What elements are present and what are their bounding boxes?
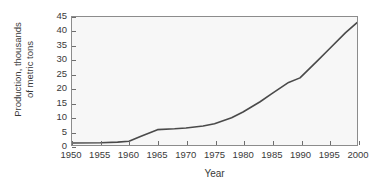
y-axis-title: Production, thousands of metric tons xyxy=(12,0,35,150)
production-line xyxy=(72,23,357,143)
y-axis-tick-labels: 051015202530354045 xyxy=(44,16,67,146)
y-tick-label: 45 xyxy=(56,11,67,21)
x-tick-mark xyxy=(216,141,217,145)
x-tick-label: 1990 xyxy=(290,149,311,160)
y-tick-mark xyxy=(72,118,76,119)
x-tick-mark xyxy=(302,141,303,145)
y-axis-title-line-1: Production, thousands xyxy=(12,0,24,150)
y-tick-mark xyxy=(72,147,76,148)
x-tick-label: 1980 xyxy=(233,149,254,160)
y-tick-label: 5 xyxy=(62,127,67,137)
y-tick-label: 40 xyxy=(56,26,67,36)
x-axis-tick-labels: 1950195519601965197019751980198519901995… xyxy=(71,149,358,163)
y-tick-label: 15 xyxy=(56,98,67,108)
x-tick-label: 1965 xyxy=(147,149,168,160)
y-tick-mark xyxy=(72,60,76,61)
x-tick-mark xyxy=(101,141,102,145)
x-tick-label: 1960 xyxy=(118,149,139,160)
x-tick-label: 1955 xyxy=(89,149,110,160)
y-tick-mark xyxy=(72,133,76,134)
x-tick-mark xyxy=(359,141,360,145)
y-tick-mark xyxy=(72,17,76,18)
y-tick-label: 30 xyxy=(56,55,67,65)
x-tick-mark xyxy=(72,141,73,145)
y-tick-mark xyxy=(72,104,76,105)
x-tick-label: 1950 xyxy=(60,149,81,160)
x-tick-label: 1970 xyxy=(175,149,196,160)
chart-figure: Production, thousands of metric tons 051… xyxy=(0,0,372,192)
y-tick-mark xyxy=(72,31,76,32)
y-tick-label: 35 xyxy=(56,40,67,50)
x-tick-label: 1975 xyxy=(204,149,225,160)
x-tick-mark xyxy=(330,141,331,145)
y-tick-label: 25 xyxy=(56,69,67,79)
y-axis-title-line-2: of metric tons xyxy=(23,0,35,150)
x-tick-mark xyxy=(158,141,159,145)
x-tick-mark xyxy=(187,141,188,145)
y-tick-label: 20 xyxy=(56,83,67,93)
y-tick-mark xyxy=(72,89,76,90)
x-tick-mark xyxy=(129,141,130,145)
y-tick-mark xyxy=(72,46,76,47)
x-axis-title: Year xyxy=(71,168,358,179)
x-tick-mark xyxy=(244,141,245,145)
plot-area xyxy=(71,16,358,146)
y-tick-label: 10 xyxy=(56,112,67,122)
y-tick-mark xyxy=(72,75,76,76)
x-tick-mark xyxy=(273,141,274,145)
x-tick-label: 1985 xyxy=(261,149,282,160)
x-tick-label: 2000 xyxy=(347,149,368,160)
x-tick-label: 1995 xyxy=(319,149,340,160)
data-line-svg xyxy=(72,17,357,145)
